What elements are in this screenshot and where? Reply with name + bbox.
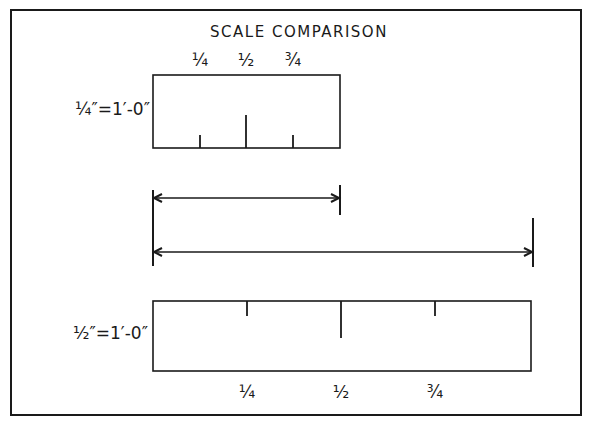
scale-label-half-inch: ½″=1′-0″ [73,323,148,343]
tick-label-quarter: ¼ [192,50,208,70]
tick-label-three-quarter: ¾ [427,382,443,402]
tick-label-quarter: ¼ [239,382,255,402]
scale-quarter-inch: ¼″=1′-0″ ¼ ½ ¾ [75,50,340,148]
diagram-title: SCALE COMPARISON [210,23,388,41]
tick-label-half: ½ [333,382,349,402]
scale-label-quarter-inch: ¼″=1′-0″ [75,99,150,119]
scale-bar-half-inch [153,301,531,371]
tick-marks [200,115,293,148]
diagram-canvas: SCALE COMPARISON ¼″=1′-0″ ¼ ½ ¾ ½″=1′-0″… [0,0,591,429]
scale-half-inch: ½″=1′-0″ ¼ ½ ¾ [73,301,531,402]
outer-frame [11,10,581,415]
tick-marks [247,301,435,338]
dimension-line-one-foot-at-quarter-scale [153,185,340,266]
tick-label-three-quarter: ¾ [285,50,301,70]
dimension-line-one-foot-at-half-scale [153,190,533,267]
tick-label-half: ½ [238,50,254,70]
dimension-lines [153,185,533,267]
scale-comparison-diagram: SCALE COMPARISON ¼″=1′-0″ ¼ ½ ¾ ½″=1′-0″… [0,0,591,429]
